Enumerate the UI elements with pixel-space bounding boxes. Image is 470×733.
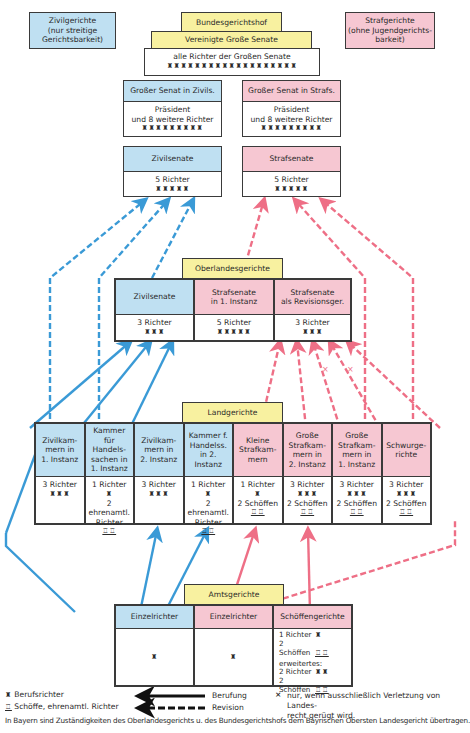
judges-count: 5 Richter: [124, 175, 221, 185]
lay-judge-icons: ♖♖: [315, 649, 329, 657]
president-label: Präsident: [124, 105, 221, 115]
legend-professional-label: Berufsrichter: [14, 690, 63, 699]
criminal-courts-legend: Strafgerichte (ohne Jugendgerichts- bark…: [345, 12, 435, 49]
united-grand-senates: Vereinigte Große Senate: [151, 31, 312, 49]
judge-icons: ♜♜♜: [275, 328, 350, 337]
lay-judges-count: 1 Richter: [279, 631, 315, 640]
lg-title: Landgerichte: [182, 402, 283, 423]
judge-icons: ♜♜♜: [333, 490, 381, 499]
judges-count: 3 Richter: [135, 480, 183, 490]
legend-revision-label: Revision: [212, 703, 244, 713]
judges-count: 3 Richter: [36, 480, 84, 490]
lg-cell: Kammer f. Handelss. in 2. Instanz 1 Rich…: [184, 423, 234, 524]
ag-cell: Einzelrichter ♜: [194, 605, 273, 686]
lay-judges-count: 2 ehrenamtl. Richter: [86, 499, 134, 528]
judges-count: 3 Richter: [275, 318, 350, 328]
ag-cell-title: Einzelrichter: [195, 606, 272, 629]
footer-note: In Bayern sind Zuständigkeiten des Oberl…: [5, 716, 470, 725]
legend-lay: ♖ Schöffe, ehrenamtl. Richter: [5, 702, 119, 712]
judge-icons: ♜: [195, 629, 272, 662]
lay-judges-count: 2 Schöffen: [383, 499, 431, 509]
bgh-title: Bundesgerichtshof: [181, 12, 282, 33]
bgh-civil-senates-title: Zivilsenate: [124, 147, 221, 172]
olg-cell-title: Zivilsenate: [116, 280, 193, 315]
judge-icons: ♜: [234, 490, 282, 499]
judge-icons: ♜: [86, 490, 134, 499]
lay-judge-icons: ♖♖: [383, 508, 431, 517]
olg-cell: Zivilsenate 3 Richter♜♜♜: [115, 279, 194, 341]
olg-cell-title: Strafsenate in 1. Instanz: [195, 280, 273, 315]
lay-judges-count: 2 Richter: [279, 668, 315, 677]
judge-icons: ♜♜♜: [383, 490, 431, 499]
judge-icons: ♜: [185, 490, 233, 499]
judge-icons: ♜♜♜: [36, 490, 84, 499]
lg-cell-title: Kammer f. Handelss. in 2. Instanz: [185, 424, 233, 477]
legend-lay-label: Schöffe, ehrenamtl. Richter: [14, 702, 118, 711]
grand-senate-criminal: Großer Senat in Strafs. Präsident und 8 …: [242, 80, 341, 137]
ag-cell: Einzelrichter ♜: [115, 605, 194, 686]
legend-professional: ♜ Berufsrichter: [5, 690, 64, 700]
grand-senate-civil: Großer Senat in Zivils. Präsident und 8 …: [123, 80, 222, 137]
lay-judge-icons: ♖♖: [86, 527, 134, 536]
lay-judge-icons: ♖♖: [333, 508, 381, 517]
civil-courts-legend: Zivilgerichte (nur streitige Gerichtsbar…: [29, 12, 116, 49]
olg-cell: Strafsenate in 1. Instanz 5 Richter♜♜♜♜♜: [194, 279, 274, 341]
ag-row: Einzelrichter ♜ Einzelrichter ♜ Schöffen…: [114, 604, 353, 687]
judges-label: und 8 weitere Richter: [243, 115, 340, 125]
ag-cell-title: Einzelrichter: [116, 606, 193, 629]
lay-judges-count: 2 ehrenamtl. Richter: [185, 499, 233, 528]
lg-cell-title: Schwurge- richte: [383, 424, 431, 477]
lay-judges-count: 2 Schöffen: [284, 499, 332, 509]
all-judges-label: alle Richter der Großen Senate: [145, 52, 319, 62]
judges-count: 1 Richter: [234, 480, 282, 490]
bgh-criminal-senates: Strafsenate 5 Richter ♜♜♜♜♜: [242, 146, 341, 197]
judges-label: und 8 weitere Richter: [124, 115, 221, 125]
judges-count: 1 Richter: [86, 480, 134, 490]
president-label: Präsident: [243, 105, 340, 115]
lg-cell: Große Strafkam- mern in 2. Instanz 3 Ric…: [283, 423, 333, 524]
judges-count: 5 Richter: [195, 318, 273, 328]
judge-icon: ♜: [5, 691, 12, 699]
x-mark-icon: ×: [275, 690, 281, 700]
bgh-criminal-senates-title: Strafsenate: [243, 147, 340, 172]
judges-count: 3 Richter: [284, 480, 332, 490]
judge-icons: ♜♜♜♜♜♜♜♜♜♜♜♜♜♜♜♜♜♜♜: [145, 62, 319, 71]
lg-cell-title: Große Strafkam- mern in 2. Instanz: [284, 424, 332, 477]
judge-icons: ♜: [315, 631, 322, 639]
lg-cell-title: Zivilkam- mern in 1. Instanz: [36, 424, 84, 477]
lg-row: Zivilkam- mern in 1. Instanz 3 Richter♜♜…: [34, 422, 432, 525]
lg-cell-title: Zivilkam- mern in 2. Instanz: [135, 424, 183, 477]
olg-row: Zivilsenate 3 Richter♜♜♜ Strafsenate in …: [114, 278, 352, 342]
judge-icons: ♜♜♜♜♜: [124, 185, 221, 194]
judges-count: 3 Richter: [116, 318, 193, 328]
judges-count: 3 Richter: [333, 480, 381, 490]
lg-cell-title: Kleine Strafkam- mern: [234, 424, 282, 477]
grand-senate-criminal-title: Großer Senat in Strafs.: [243, 81, 340, 102]
lg-cell: Kammer für Handels- sachen in 1. Instanz…: [85, 423, 135, 524]
olg-cell: Strafsenate als Revisionsger. 3 Richter♜…: [274, 279, 351, 341]
ag-cell: Schöffengerichte 1 Richter♜ 2 Schöffen♖♖…: [273, 605, 352, 686]
lg-cell: Schwurge- richte 3 Richter♜♜♜2 Schöffen♖…: [382, 423, 432, 524]
judge-icons: ♜: [116, 629, 193, 662]
judges-count: 3 Richter: [383, 480, 431, 490]
judge-icons: ♜♜♜: [135, 490, 183, 499]
lay-judges-count: 2 Schöffen: [333, 499, 381, 509]
svg-text:×: ×: [347, 365, 354, 374]
lay-judges-count: 2 Schöffen: [234, 499, 282, 509]
lay-judge-icon: ♖: [5, 703, 12, 711]
judge-icons: ♜♜: [315, 668, 329, 676]
olg-cell-title: Strafsenate als Revisionsger.: [275, 280, 350, 315]
bgh-civil-senates: Zivilsenate 5 Richter ♜♜♜♜♜: [123, 146, 222, 197]
ag-cell-title: Schöffengerichte: [274, 606, 351, 629]
lay-judge-icons: ♖♖: [234, 508, 282, 517]
grand-senate-civil-title: Großer Senat in Zivils.: [124, 81, 221, 102]
judge-icons: ♜♜♜♜♜♜♜♜♜: [243, 124, 340, 133]
judge-icons: ♜♜♜♜♜: [243, 185, 340, 194]
lg-cell-title: Große Strafkam- mern in 1. Instanz: [333, 424, 381, 477]
lay-judge-icons: ♖♖: [284, 508, 332, 517]
svg-text:×: ×: [322, 365, 329, 374]
lay-judges-count: 2 Schöffen: [279, 640, 315, 657]
all-judges-box: alle Richter der Großen Senate ♜♜♜♜♜♜♜♜♜…: [144, 48, 320, 76]
legend-appeal-label: Berufung: [212, 691, 247, 701]
judges-count: 5 Richter: [243, 175, 340, 185]
